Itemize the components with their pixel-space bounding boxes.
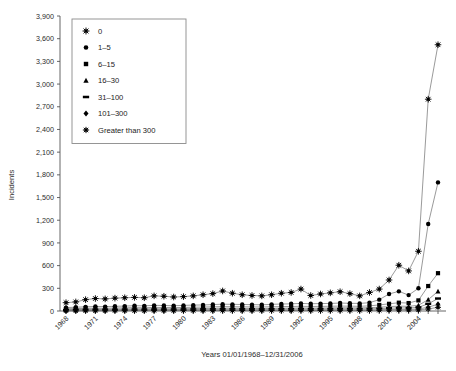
data-point-star bbox=[72, 299, 79, 306]
data-point-starsmall bbox=[347, 307, 353, 313]
data-point-starsmall bbox=[161, 308, 167, 314]
data-point-starsmall bbox=[63, 308, 69, 314]
legend-item-label: 31–100 bbox=[98, 93, 123, 102]
data-point-starsmall bbox=[180, 308, 186, 314]
data-point-star bbox=[229, 290, 236, 297]
data-point-star bbox=[356, 293, 363, 300]
y-tick-label: 3,600 bbox=[36, 34, 54, 43]
data-point-square bbox=[416, 298, 420, 302]
y-tick-label: 2,700 bbox=[36, 102, 54, 111]
data-point-starsmall bbox=[259, 308, 265, 314]
data-point-dash bbox=[83, 96, 89, 99]
data-point-star bbox=[298, 286, 305, 293]
y-tick-label: 1,500 bbox=[36, 193, 54, 202]
y-tick-label: 3,300 bbox=[36, 57, 54, 66]
data-point-star bbox=[405, 268, 412, 275]
data-point-circle bbox=[387, 292, 391, 296]
data-point-circle bbox=[416, 286, 420, 290]
y-tick-label: 600 bbox=[42, 261, 54, 270]
data-point-star bbox=[82, 296, 89, 303]
data-point-starsmall bbox=[210, 307, 216, 313]
data-point-starsmall bbox=[337, 307, 343, 313]
data-point-starsmall bbox=[239, 307, 245, 313]
data-point-star bbox=[317, 291, 324, 298]
data-point-star bbox=[337, 288, 344, 295]
y-tick-label: 2,400 bbox=[36, 125, 54, 134]
data-point-starsmall bbox=[102, 308, 108, 314]
legend-box bbox=[72, 19, 186, 144]
data-point-starsmall bbox=[269, 307, 275, 313]
y-tick-label: 1,200 bbox=[36, 216, 54, 225]
data-point-starsmall bbox=[200, 308, 206, 314]
data-point-star bbox=[386, 277, 393, 284]
data-point-star bbox=[307, 292, 314, 299]
data-point-star bbox=[425, 96, 432, 103]
y-tick-label: 1,800 bbox=[36, 170, 54, 179]
data-point-star bbox=[200, 291, 207, 298]
data-point-star bbox=[180, 293, 187, 300]
incidents-line-chart: 03006009001,2001,5001,8002,1002,4002,700… bbox=[0, 0, 456, 371]
data-point-star bbox=[141, 294, 148, 301]
data-point-star bbox=[190, 293, 197, 300]
data-point-starsmall bbox=[73, 308, 79, 314]
y-tick-label: 2,100 bbox=[36, 148, 54, 157]
x-axis-title: Years 01/01/1968–12/31/2006 bbox=[201, 350, 302, 359]
data-point-star bbox=[210, 290, 217, 297]
data-point-star bbox=[278, 290, 285, 297]
data-point-star bbox=[112, 295, 119, 302]
y-tick-label: 3,000 bbox=[36, 80, 54, 89]
data-point-star bbox=[396, 262, 403, 269]
data-point-starsmall bbox=[396, 307, 402, 313]
chart-canvas: 03006009001,2001,5001,8002,1002,4002,700… bbox=[0, 0, 456, 371]
data-point-square bbox=[436, 271, 440, 275]
data-point-starsmall bbox=[278, 307, 284, 313]
data-point-star bbox=[366, 289, 373, 296]
data-point-starsmall bbox=[220, 307, 226, 313]
data-point-starsmall bbox=[112, 308, 118, 314]
data-point-star bbox=[327, 290, 334, 297]
data-point-starsmall bbox=[357, 307, 363, 313]
data-point-star bbox=[83, 28, 90, 35]
data-point-square bbox=[426, 284, 430, 288]
data-point-star bbox=[376, 286, 383, 293]
data-point-circle bbox=[406, 293, 410, 297]
data-point-starsmall bbox=[327, 307, 333, 313]
data-point-starsmall bbox=[141, 308, 147, 314]
data-point-starsmall bbox=[318, 307, 324, 313]
data-point-starsmall bbox=[132, 308, 138, 314]
data-point-starsmall bbox=[415, 307, 421, 313]
data-point-circle bbox=[397, 289, 401, 293]
data-point-star bbox=[347, 290, 354, 297]
data-point-starsmall bbox=[376, 307, 382, 313]
legend-item-label: 16–30 bbox=[98, 76, 119, 85]
data-point-circle bbox=[436, 180, 440, 184]
data-point-starsmall bbox=[151, 308, 157, 314]
data-point-starsmall bbox=[190, 308, 196, 314]
data-point-starsmall bbox=[308, 307, 314, 313]
y-axis-title: Incidents bbox=[7, 170, 16, 201]
data-point-star bbox=[239, 291, 246, 298]
data-point-starsmall bbox=[386, 307, 392, 313]
y-tick-label: 900 bbox=[42, 239, 54, 248]
data-point-starsmall bbox=[435, 304, 441, 310]
data-point-star bbox=[92, 295, 99, 302]
legend-item-label: 101–300 bbox=[98, 109, 128, 118]
y-tick-label: 0 bbox=[50, 307, 54, 316]
data-point-square bbox=[84, 62, 88, 66]
data-point-starsmall bbox=[229, 307, 235, 313]
data-point-starsmall bbox=[92, 308, 98, 314]
data-point-starsmall bbox=[122, 308, 128, 314]
data-point-starsmall bbox=[288, 307, 294, 313]
data-point-circle bbox=[426, 222, 430, 226]
data-point-starsmall bbox=[425, 306, 431, 312]
data-point-circle bbox=[84, 45, 89, 50]
legend-item-label: 0 bbox=[98, 27, 102, 36]
data-point-starsmall bbox=[406, 307, 412, 313]
data-point-star bbox=[288, 289, 295, 296]
data-point-starsmall bbox=[249, 308, 255, 314]
data-point-starsmall bbox=[298, 307, 304, 313]
legend-item-label: 6–15 bbox=[98, 60, 115, 69]
data-point-starsmall bbox=[171, 308, 177, 314]
data-point-star bbox=[63, 299, 70, 306]
legend-item-label: Greater than 300 bbox=[98, 126, 155, 135]
